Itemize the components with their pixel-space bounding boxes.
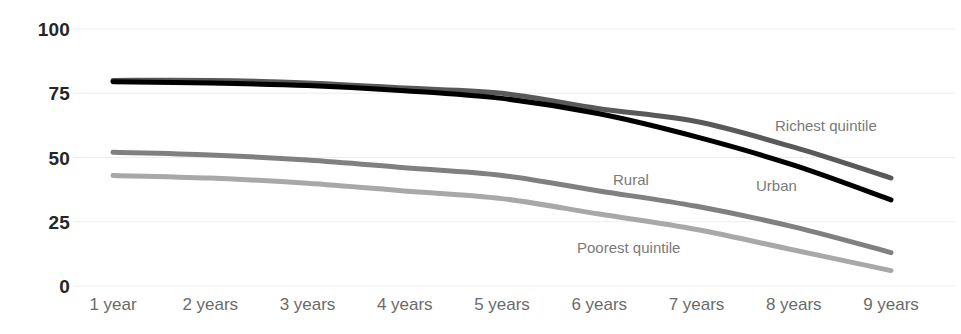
y-axis-tick-label: 100: [0, 20, 70, 39]
y-axis-tick-label: 25: [0, 213, 70, 232]
y-axis-tick-label: 75: [0, 84, 70, 103]
series-lines: [113, 80, 891, 270]
series-label-richest: Richest quintile: [775, 118, 877, 133]
y-axis-tick-label: 50: [0, 149, 70, 168]
chart-plot-area: [0, 0, 961, 334]
x-axis-tick-label: 9 years: [831, 296, 951, 313]
line-chart: 0255075100 1 year2 years3 years4 years5 …: [0, 0, 961, 334]
series-label-poorest: Poorest quintile: [577, 240, 680, 255]
series-label-urban: Urban: [756, 178, 797, 193]
series-label-rural: Rural: [613, 172, 649, 187]
series-line-rural: [113, 152, 891, 252]
y-axis-tick-label: 0: [0, 277, 70, 296]
